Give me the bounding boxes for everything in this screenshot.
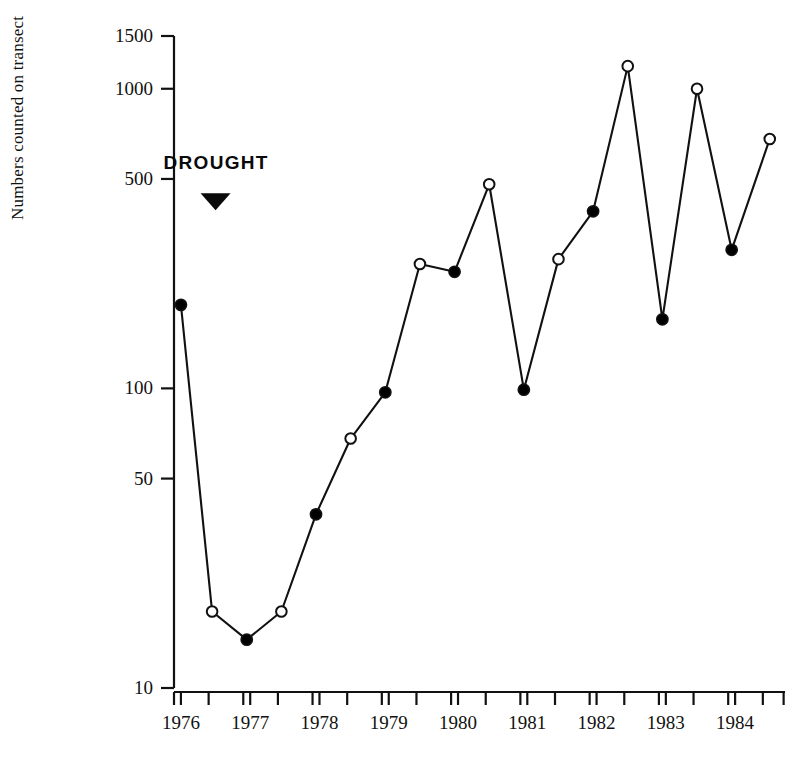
y-axis-tick-label: 500 xyxy=(91,168,153,190)
y-axis-tick-label: 100 xyxy=(91,377,153,399)
x-axis-tick-label: 1980 xyxy=(423,712,493,734)
data-point-filled xyxy=(518,384,529,395)
data-point-filled xyxy=(726,244,737,255)
x-axis-tick-label: 1982 xyxy=(562,712,632,734)
data-point-open xyxy=(415,259,426,270)
chart-series xyxy=(175,61,775,645)
data-point-filled xyxy=(380,387,391,398)
x-axis-tick-label: 1976 xyxy=(146,712,216,734)
chart-axes xyxy=(161,36,785,705)
data-point-open xyxy=(276,606,287,617)
chart-figure: Numbers counted on transect 150010005001… xyxy=(0,0,806,764)
x-axis-tick-label: 1977 xyxy=(215,712,285,734)
y-axis-tick-label: 1000 xyxy=(91,78,153,100)
x-axis-tick-label: 1979 xyxy=(354,712,424,734)
data-point-open xyxy=(207,606,218,617)
y-axis-label: Numbers counted on transect xyxy=(8,0,28,220)
data-point-filled xyxy=(175,299,186,310)
data-point-open xyxy=(622,61,633,72)
series-line xyxy=(181,66,770,640)
drought-triangle-icon xyxy=(201,193,231,210)
data-point-open xyxy=(764,134,775,145)
data-point-filled xyxy=(241,634,252,645)
y-axis-tick-label: 10 xyxy=(91,677,153,699)
x-axis-tick-label: 1981 xyxy=(492,712,562,734)
data-point-open xyxy=(692,83,703,94)
x-axis-tick-label: 1984 xyxy=(700,712,770,734)
y-axis-tick-label: 50 xyxy=(91,468,153,490)
x-axis-tick-label: 1983 xyxy=(631,712,701,734)
data-point-filled xyxy=(588,206,599,217)
data-point-open xyxy=(553,254,564,265)
data-point-filled xyxy=(657,314,668,325)
data-point-open xyxy=(345,433,356,444)
y-axis-tick-label: 1500 xyxy=(91,25,153,47)
x-axis-tick-label: 1978 xyxy=(284,712,354,734)
chart-annotations xyxy=(201,193,231,210)
data-point-filled xyxy=(449,266,460,277)
data-point-filled xyxy=(310,509,321,520)
drought-annotation-label: DROUGHT xyxy=(164,152,269,174)
data-point-open xyxy=(484,179,495,190)
